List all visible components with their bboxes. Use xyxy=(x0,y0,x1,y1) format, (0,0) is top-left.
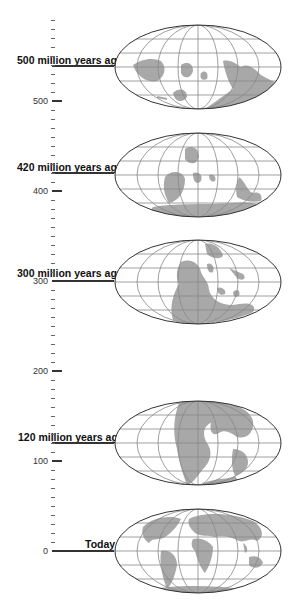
era-line-120 xyxy=(52,442,114,444)
minor-tick xyxy=(51,155,55,156)
minor-tick xyxy=(51,20,55,21)
minor-tick xyxy=(51,146,55,147)
era-label-today: Today xyxy=(85,538,115,550)
minor-tick xyxy=(51,272,55,273)
minor-tick xyxy=(51,389,55,390)
minor-tick xyxy=(51,173,55,174)
minor-tick xyxy=(51,380,55,381)
globe-120mya xyxy=(113,399,283,487)
minor-tick xyxy=(51,308,55,309)
minor-tick xyxy=(51,164,55,165)
minor-tick xyxy=(51,497,55,498)
minor-tick xyxy=(51,92,55,93)
minor-tick xyxy=(51,83,55,84)
major-tick-100 xyxy=(52,460,62,462)
tick-label-400: 400 xyxy=(8,186,48,196)
tick-label-0: 0 xyxy=(8,546,48,556)
era-line-300 xyxy=(52,280,114,282)
major-tick-500 xyxy=(52,100,62,102)
minor-tick xyxy=(51,470,55,471)
minor-tick xyxy=(51,479,55,480)
tick-label-500: 500 xyxy=(8,96,48,106)
era-line-today xyxy=(52,550,114,552)
minor-tick xyxy=(51,56,55,57)
minor-tick xyxy=(51,65,55,66)
minor-tick xyxy=(51,398,55,399)
minor-tick xyxy=(51,290,55,291)
minor-tick xyxy=(51,38,55,39)
globe-today xyxy=(113,507,283,595)
globe-500mya xyxy=(113,23,283,111)
minor-tick xyxy=(51,335,55,336)
minor-tick xyxy=(51,209,55,210)
minor-tick xyxy=(51,218,55,219)
minor-tick xyxy=(51,488,55,489)
minor-tick xyxy=(51,443,55,444)
minor-tick xyxy=(51,542,55,543)
era-line-420 xyxy=(52,172,114,174)
minor-tick xyxy=(51,407,55,408)
minor-tick xyxy=(51,506,55,507)
tick-label-300: 300 xyxy=(8,276,48,286)
minor-tick xyxy=(51,227,55,228)
minor-tick xyxy=(51,254,55,255)
minor-tick xyxy=(51,74,55,75)
tick-label-100: 100 xyxy=(8,456,48,466)
minor-tick xyxy=(51,29,55,30)
minor-tick xyxy=(51,128,55,129)
minor-tick xyxy=(51,344,55,345)
globe-300mya xyxy=(113,238,283,326)
minor-tick xyxy=(51,524,55,525)
minor-tick xyxy=(51,326,55,327)
minor-tick xyxy=(51,452,55,453)
minor-tick xyxy=(51,533,55,534)
tick-label-200: 200 xyxy=(8,366,48,376)
minor-tick xyxy=(51,200,55,201)
minor-tick xyxy=(51,119,55,120)
minor-tick xyxy=(51,515,55,516)
era-line-500 xyxy=(52,65,114,67)
minor-tick xyxy=(51,416,55,417)
minor-tick xyxy=(51,299,55,300)
minor-tick xyxy=(51,47,55,48)
minor-tick xyxy=(51,425,55,426)
minor-tick xyxy=(51,362,55,363)
globe-420mya xyxy=(113,131,283,219)
minor-tick xyxy=(51,182,55,183)
minor-tick xyxy=(51,263,55,264)
minor-tick xyxy=(51,353,55,354)
minor-tick xyxy=(51,245,55,246)
major-tick-400 xyxy=(52,190,62,192)
minor-tick xyxy=(51,317,55,318)
major-tick-200 xyxy=(52,370,62,372)
minor-tick xyxy=(51,236,55,237)
minor-tick xyxy=(51,434,55,435)
minor-tick xyxy=(51,137,55,138)
minor-tick xyxy=(51,110,55,111)
